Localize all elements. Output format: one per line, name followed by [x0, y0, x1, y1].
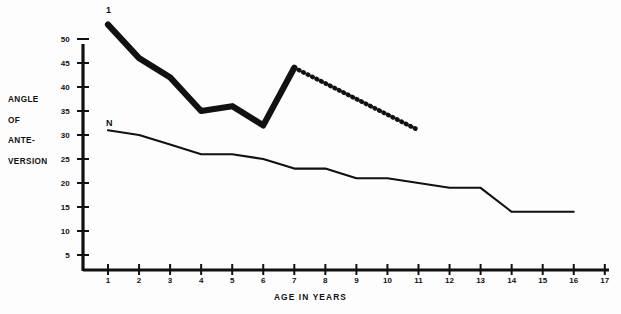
y-axis-tick-label: 45: [48, 59, 70, 68]
x-axis-tick-label: 12: [441, 276, 459, 285]
x-axis-tick-label: 13: [472, 276, 490, 285]
series-label: 1: [106, 5, 111, 15]
series-layer: [108, 25, 574, 212]
x-axis-tick-label: 7: [285, 276, 303, 285]
x-axis-tick-label: 6: [254, 276, 272, 285]
x-axis-tick-label: 16: [565, 276, 583, 285]
y-axis-tick-label: 35: [48, 107, 70, 116]
y-axis-tick-label: 25: [48, 155, 70, 164]
y-axis-tick-label: 15: [48, 203, 70, 212]
x-axis-tick-label: 10: [378, 276, 396, 285]
x-axis-tick-label: 9: [347, 276, 365, 285]
y-axis-tick-label: 20: [48, 179, 70, 188]
y-axis-tick-label: 50: [48, 35, 70, 44]
y-axis-tick-label: 5: [48, 251, 70, 260]
data-series-line: [294, 68, 418, 130]
x-axis-tick-label: 2: [130, 276, 148, 285]
data-series-line: [108, 25, 294, 126]
x-axis-tick-label: 4: [192, 276, 210, 285]
axis-lines: [83, 44, 609, 271]
x-axis-tick-label: 8: [316, 276, 334, 285]
y-axis-tick-label: 30: [48, 131, 70, 140]
data-series-line: [108, 130, 574, 212]
x-axis-tick-label: 3: [161, 276, 179, 285]
x-axis-tick-label: 15: [534, 276, 552, 285]
x-axis-tick-label: 5: [223, 276, 241, 285]
series-label: N: [106, 118, 113, 128]
x-axis-tick-label: 1: [99, 276, 117, 285]
x-axis-tick-label: 17: [596, 276, 614, 285]
x-axis-tick-label: 11: [410, 276, 428, 285]
y-axis-tick-label: 40: [48, 83, 70, 92]
chart-figure: ANGLE OF ANTE- VERSION AGE IN YEARS 5101…: [0, 0, 621, 314]
y-axis-tick-label: 10: [48, 227, 70, 236]
plot-area: [0, 0, 621, 314]
x-axis-tick-label: 14: [503, 276, 521, 285]
